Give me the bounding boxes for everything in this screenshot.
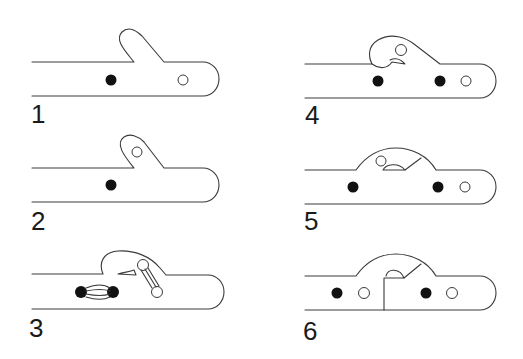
- open-hole: [359, 288, 370, 299]
- open-hole: [152, 287, 163, 298]
- open-hole: [461, 76, 471, 86]
- panel-label-6: 6: [303, 318, 317, 344]
- open-hole: [396, 45, 407, 56]
- panel-label-2: 2: [31, 208, 45, 234]
- filled-pin: [332, 288, 343, 299]
- open-hole: [460, 182, 470, 192]
- panel-1-figure: [32, 29, 219, 96]
- open-hole: [132, 147, 142, 157]
- open-hole: [138, 260, 149, 271]
- open-hole: [447, 288, 458, 299]
- diagram-canvas: [0, 0, 523, 359]
- panel-label-3: 3: [29, 315, 43, 341]
- filled-pin: [373, 76, 384, 87]
- panel-5-figure: [305, 148, 496, 204]
- panel-label-1: 1: [31, 101, 45, 127]
- filled-pin: [106, 75, 117, 86]
- filled-pin: [348, 182, 359, 193]
- filled-pin: [421, 288, 432, 299]
- panel-3-figure: [32, 251, 224, 309]
- filled-pin: [433, 182, 444, 193]
- open-hole: [178, 75, 188, 85]
- panel-label-4: 4: [305, 102, 319, 128]
- panel-6-figure: [305, 254, 496, 310]
- filled-pin: [435, 76, 446, 87]
- panel-4-figure: [305, 36, 496, 98]
- panel-2-figure: [32, 135, 219, 202]
- filled-pin: [106, 180, 117, 191]
- open-hole: [376, 156, 386, 166]
- filled-pin: [75, 286, 87, 298]
- panel-label-5: 5: [304, 208, 318, 234]
